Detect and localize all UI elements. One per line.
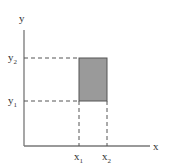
y-axis-label: y	[19, 13, 25, 24]
x-axis-label: x	[153, 141, 159, 152]
y2-label: y2	[8, 52, 17, 66]
x1-label: x1	[74, 151, 83, 165]
shaded-rectangle	[79, 58, 107, 101]
x2-label: x2	[102, 151, 111, 165]
y1-label: y1	[8, 95, 17, 109]
diagram-canvas	[0, 0, 169, 168]
